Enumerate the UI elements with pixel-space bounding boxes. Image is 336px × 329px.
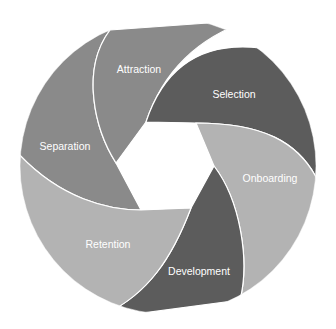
label-development: Development [168, 265, 230, 277]
label-separation: Separation [40, 140, 91, 152]
label-retention: Retention [86, 238, 131, 250]
talent-lifecycle-diagram: Attraction Selection Onboarding Developm… [0, 0, 336, 329]
label-selection: Selection [212, 88, 255, 100]
label-onboarding: Onboarding [243, 172, 298, 184]
label-attraction: Attraction [117, 63, 162, 75]
